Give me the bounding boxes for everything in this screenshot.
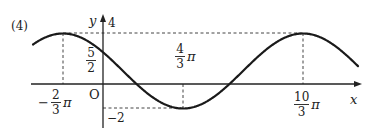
y-axis-label: y [89,14,96,27]
pi-symbol: π [187,49,196,64]
y-tick-max: 4 [108,17,116,29]
x-axis-label: x [350,93,357,106]
numerator: 10 [294,91,309,103]
minus-sign: − [38,95,49,110]
numerator: 4 [176,43,184,55]
denominator: 2 [87,62,95,74]
x-tick-ten-thirds-pi: 10 3 π [294,91,320,118]
x-tick-four-thirds-pi: 4 3 π [175,43,196,70]
y-tick-five-halves: 5 2 [86,47,96,74]
numerator: 5 [87,47,95,59]
problem-number: (4) [11,20,28,32]
pi-symbol: π [311,97,320,112]
numerator: 2 [52,89,60,101]
pi-symbol: π [63,95,72,110]
origin-label: O [89,88,100,101]
denominator: 3 [298,106,306,118]
denominator: 3 [52,104,60,116]
x-axis-arrow-icon [354,81,362,87]
y-axis-arrow-icon [100,14,106,22]
denominator: 3 [176,58,184,70]
y-tick-min: −2 [107,112,125,124]
x-tick-neg-two-thirds-pi: − 2 3 π [38,89,71,116]
